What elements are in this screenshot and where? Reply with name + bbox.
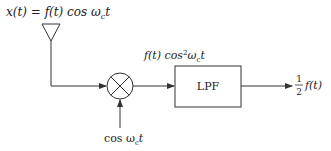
output-label: 1 2 f(t) (295, 74, 322, 97)
demodulator-diagram: x(t) = f(t) cos ωct cos ωct f(t) cos2ωct… (0, 0, 331, 151)
input-signal-label: x(t) = f(t) cos ωct (6, 5, 110, 21)
antenna-icon (42, 24, 60, 41)
input-line (51, 41, 106, 86)
svg-text:2: 2 (296, 87, 302, 97)
svg-text:1: 1 (296, 74, 302, 84)
oscillator-label: cos ωct (104, 132, 144, 147)
svg-text:f(t): f(t) (304, 79, 322, 92)
mixer-output-label: f(t) cos2ωct (143, 49, 205, 64)
lpf-label: LPF (197, 80, 220, 93)
mixer-icon (107, 73, 133, 99)
